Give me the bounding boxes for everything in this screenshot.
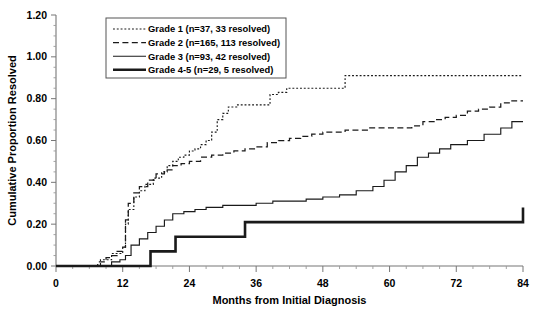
chart-svg: 0.000.200.400.600.801.001.20012243648607… (0, 0, 541, 312)
y-axis-title: Cumulative Proportion Resolved (6, 55, 18, 226)
x-tick-label: 48 (317, 277, 329, 289)
chart-figure: 0.000.200.400.600.801.001.20012243648607… (0, 0, 541, 312)
y-tick-label: 0.60 (27, 134, 48, 146)
x-tick-label: 60 (384, 277, 396, 289)
x-tick-label: 84 (517, 277, 529, 289)
series-line-grade-2 (56, 101, 523, 266)
x-axis-title: Months from Initial Diagnosis (212, 294, 366, 306)
y-tick-label: 0.80 (27, 92, 48, 104)
x-tick-label: 12 (117, 277, 129, 289)
legend-label-3: Grade 3 (n=93, 42 resolved) (148, 51, 270, 62)
y-tick-label: 0.20 (27, 218, 48, 230)
x-tick-label: 72 (450, 277, 462, 289)
y-tick-label: 1.20 (27, 9, 48, 21)
y-tick-label: 0.00 (27, 260, 48, 272)
y-tick-label: 1.00 (27, 50, 48, 62)
x-tick-label: 0 (53, 277, 59, 289)
x-tick-label: 24 (184, 277, 196, 289)
series-line-grade-3 (56, 122, 523, 266)
legend-label-1: Grade 1 (n=37, 33 resolved) (148, 23, 270, 34)
x-tick-label: 36 (250, 277, 262, 289)
legend-label-2: Grade 2 (n=165, 113 resolved) (148, 37, 280, 48)
y-tick-label: 0.40 (27, 176, 48, 188)
legend-label-4: Grade 4-5 (n=29, 5 resolved) (148, 64, 273, 75)
